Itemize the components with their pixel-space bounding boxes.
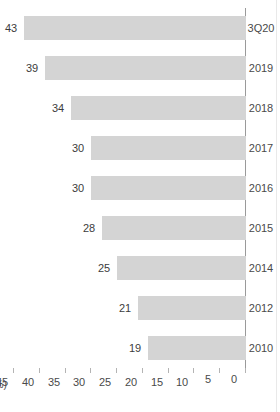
chart-plate: (%)051015202530354045 192010212012252014…	[0, 0, 280, 412]
value-axis-tick	[168, 368, 169, 373]
value-axis-tick	[65, 368, 66, 373]
value-axis-tick	[219, 368, 220, 373]
value-axis-tick-label: 35	[47, 376, 59, 388]
bar	[91, 176, 246, 201]
value-axis-tick-label: 15	[151, 376, 163, 388]
plot-area: (%)051015202530354045 192010212012252014…	[14, 8, 246, 368]
category-axis-label: 2010	[249, 342, 273, 354]
bar-value-label: 43	[5, 22, 17, 34]
bar	[102, 216, 246, 241]
value-axis-tick	[90, 368, 91, 373]
value-axis-tick-label: 30	[73, 376, 85, 388]
bar-group: 342018	[14, 88, 246, 128]
category-axis-label: 2017	[249, 142, 273, 154]
value-axis-tick	[39, 368, 40, 373]
value-axis-tick	[193, 368, 194, 373]
bar-value-label: 25	[98, 262, 110, 274]
bar-value-label: 28	[83, 222, 95, 234]
bar-value-label: 19	[129, 342, 141, 354]
bar-group: 302017	[14, 128, 246, 168]
bar-group: 302016	[14, 168, 246, 208]
category-axis-label: 2016	[249, 182, 273, 194]
bar-group: 433Q20	[14, 8, 246, 48]
value-axis-tick-label: 5	[205, 373, 211, 385]
value-axis-tick	[142, 368, 143, 373]
bar	[91, 136, 246, 161]
bar-value-label: 30	[72, 182, 84, 194]
value-axis-tick-label: 20	[125, 376, 137, 388]
bar-value-label: 30	[72, 142, 84, 154]
bar-group: 282015	[14, 208, 246, 248]
bar-group: 392019	[14, 48, 246, 88]
bar	[138, 296, 246, 321]
bar	[24, 16, 246, 41]
bar-group: 252014	[14, 248, 246, 288]
value-axis-tick-label: 10	[176, 376, 188, 388]
category-axis-label: 2014	[249, 262, 273, 274]
bar-group: 212012	[14, 288, 246, 328]
bar-value-label: 34	[52, 102, 64, 114]
value-axis-tick-label: 0	[231, 373, 237, 385]
category-axis-label: 3Q20	[248, 22, 275, 34]
category-axis-label: 2018	[249, 102, 273, 114]
bar-group: 192010	[14, 328, 246, 368]
category-axis-label: 2015	[249, 222, 273, 234]
value-axis-tick	[116, 368, 117, 373]
chart-page: 제21기 누적 재무 현황 (%)051015202530354045 1920…	[0, 0, 280, 412]
category-axis-label: 2012	[249, 302, 273, 314]
value-axis-tick-label: 25	[99, 376, 111, 388]
bar-value-label: 21	[119, 302, 131, 314]
bar-value-label: 39	[26, 62, 38, 74]
bar	[71, 96, 246, 121]
value-axis-tick	[245, 368, 246, 373]
bar	[45, 56, 246, 81]
bar	[148, 336, 246, 361]
category-axis-label: 2019	[249, 62, 273, 74]
bar	[117, 256, 246, 281]
value-axis-tick	[13, 368, 14, 373]
value-axis-tick-label: 45	[0, 376, 8, 388]
value-axis-tick-label: 40	[22, 376, 34, 388]
